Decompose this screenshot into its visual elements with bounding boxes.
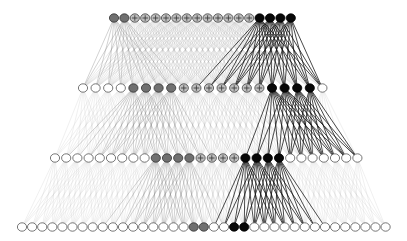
node-white <box>78 223 87 231</box>
node-gray <box>174 154 183 162</box>
node-gray <box>120 14 129 22</box>
node-white <box>209 223 218 231</box>
node-white <box>98 223 107 231</box>
node-black <box>280 84 289 92</box>
node-white <box>129 154 138 162</box>
node-white <box>27 223 36 231</box>
node-white <box>353 154 362 162</box>
node-white <box>118 223 127 231</box>
node-black <box>293 84 302 92</box>
node-white <box>179 223 188 231</box>
node-white <box>330 154 339 162</box>
edges-group <box>22 18 386 227</box>
edge-line <box>32 158 55 227</box>
node-gray <box>189 223 198 231</box>
node-white <box>361 223 370 231</box>
node-white <box>84 154 93 162</box>
node-white <box>331 223 340 231</box>
node-white <box>139 223 148 231</box>
node-white <box>95 154 104 162</box>
node-black <box>265 14 274 22</box>
node-white <box>140 154 149 162</box>
node-white <box>50 154 59 162</box>
node-gray <box>199 223 208 231</box>
node-white <box>169 223 178 231</box>
edge-line <box>222 88 246 158</box>
node-white <box>62 154 71 162</box>
node-white <box>58 223 67 231</box>
edge-line <box>122 88 146 158</box>
node-black <box>230 223 239 231</box>
edge-line <box>83 158 89 227</box>
node-white <box>286 154 295 162</box>
edge-line <box>22 158 89 227</box>
node-white <box>159 223 168 231</box>
node-gray <box>162 154 171 162</box>
node-white <box>129 223 138 231</box>
edge-line <box>62 158 88 227</box>
node-white <box>38 223 47 231</box>
node-black <box>240 223 249 231</box>
node-black <box>263 154 272 162</box>
node-white <box>310 223 319 231</box>
edge-line <box>196 18 228 88</box>
edge-line <box>324 158 345 227</box>
edge-line <box>145 18 146 88</box>
node-white <box>108 223 117 231</box>
edge-line <box>22 158 55 227</box>
edge-line <box>167 158 174 227</box>
node-white <box>149 223 158 231</box>
edge-line <box>324 158 386 227</box>
node-white <box>320 223 329 231</box>
node-white <box>300 223 309 231</box>
node-white <box>116 84 125 92</box>
node-gray <box>141 84 150 92</box>
node-white <box>280 223 289 231</box>
edge-line <box>22 158 77 227</box>
edge-line <box>184 158 190 227</box>
edge-line <box>55 88 108 158</box>
network-svg <box>0 0 407 241</box>
node-white <box>381 223 390 231</box>
node-white <box>68 223 77 231</box>
node-white <box>104 84 113 92</box>
edge-line <box>55 88 83 158</box>
node-gray <box>109 14 118 22</box>
node-black <box>252 154 261 162</box>
node-white <box>297 154 306 162</box>
layer-2 <box>78 84 327 92</box>
edge-line <box>223 88 247 158</box>
node-black <box>255 14 264 22</box>
edge-line <box>62 158 99 227</box>
node-gray <box>167 84 176 92</box>
node-white <box>88 223 97 231</box>
edge-line <box>301 158 325 227</box>
layer-1 <box>109 14 295 22</box>
node-black <box>276 14 285 22</box>
node-white <box>342 154 351 162</box>
edge-line <box>163 158 189 227</box>
node-white <box>351 223 360 231</box>
node-gray <box>185 154 194 162</box>
edge-line <box>122 158 123 227</box>
node-white <box>219 223 228 231</box>
node-black <box>267 84 276 92</box>
node-white <box>290 223 299 231</box>
node-white <box>106 154 115 162</box>
node-white <box>308 154 317 162</box>
node-white <box>78 84 87 92</box>
node-gray <box>154 84 163 92</box>
node-white <box>48 223 57 231</box>
layer-3 <box>50 154 362 162</box>
edge-line <box>171 18 218 88</box>
edge-line <box>123 158 156 227</box>
edge-line <box>313 158 366 227</box>
node-black <box>305 84 314 92</box>
neural-network-diagram <box>0 0 407 241</box>
node-white <box>118 154 127 162</box>
node-white <box>260 223 269 231</box>
node-black <box>274 154 283 162</box>
edge-line <box>224 158 245 227</box>
node-white <box>319 154 328 162</box>
edge-line <box>123 158 145 227</box>
